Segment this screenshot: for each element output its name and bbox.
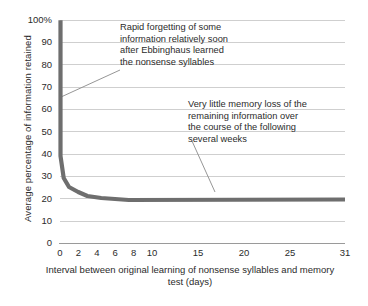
leader-line-1 bbox=[61, 70, 120, 97]
forgetting-curve-chart: Average percentage of information retain… bbox=[0, 0, 368, 306]
x-tick-0: 0 bbox=[50, 247, 70, 258]
y-tick-80: 80 bbox=[18, 60, 52, 70]
y-tick-90: 90 bbox=[18, 37, 52, 47]
annotation-little-memory-loss: Very little memory loss of the remaining… bbox=[188, 99, 348, 145]
x-tick-8: 8 bbox=[124, 247, 144, 258]
y-tick-50: 50 bbox=[18, 127, 52, 137]
x-tick-10: 10 bbox=[142, 247, 162, 258]
y-tick-0: 0 bbox=[18, 238, 52, 248]
x-tick-20: 20 bbox=[234, 247, 254, 258]
x-tick-2: 2 bbox=[68, 247, 88, 258]
x-tick-15: 15 bbox=[188, 247, 208, 258]
x-tick-4: 4 bbox=[87, 247, 107, 258]
x-axis-title: Interval between original learning of no… bbox=[40, 264, 340, 288]
y-tick-40: 40 bbox=[18, 149, 52, 159]
annotation-rapid-forgetting: Rapid forgetting of some information rel… bbox=[120, 22, 270, 68]
leader-line-2 bbox=[192, 141, 215, 192]
y-tick-70: 70 bbox=[18, 82, 52, 92]
y-tick-100: 100% bbox=[12, 15, 52, 25]
y-tick-60: 60 bbox=[18, 104, 52, 114]
y-tick-20: 20 bbox=[18, 194, 52, 204]
x-tick-31: 31 bbox=[335, 247, 355, 258]
x-tick-25: 25 bbox=[280, 247, 300, 258]
y-tick-10: 10 bbox=[18, 216, 52, 226]
y-tick-30: 30 bbox=[18, 171, 52, 181]
x-tick-6: 6 bbox=[105, 247, 125, 258]
